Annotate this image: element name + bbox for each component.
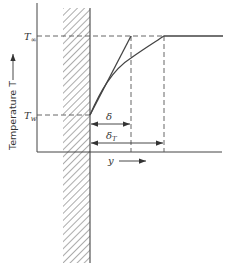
delta-t-label: δT	[106, 130, 118, 143]
t-w-label: Tw	[24, 110, 37, 123]
t-inf-label: T∞	[24, 31, 37, 44]
delta-label: δ	[106, 111, 112, 122]
temperature-axis-label-group: Temperature T	[7, 54, 18, 151]
temperature-axis-label: Temperature T	[7, 81, 18, 151]
wall-hatch	[63, 8, 90, 263]
y-axis-label: y	[107, 155, 114, 166]
temperature-profile-diagram: T∞ Tw δ δT y Temperature T	[0, 0, 229, 267]
wall	[63, 8, 90, 263]
